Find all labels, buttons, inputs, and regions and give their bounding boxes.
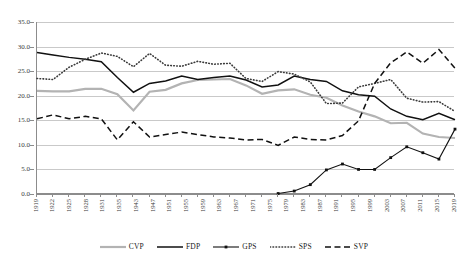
series-marker-gps <box>438 158 441 161</box>
x-tick-label: 1979 <box>283 199 290 212</box>
x-tick-mark <box>197 194 198 197</box>
x-tick-label: 1987 <box>317 199 324 212</box>
series-marker-gps <box>405 145 408 148</box>
y-tick-mark <box>30 96 34 97</box>
x-tick-label: 1922 <box>49 199 56 212</box>
x-tick-label: 1931 <box>99 199 106 212</box>
legend-item-fdp[interactable]: FDP <box>157 243 200 251</box>
legend-label: SVP <box>354 243 368 251</box>
x-tick-label: 1928 <box>83 199 90 212</box>
x-tick-mark <box>245 194 246 197</box>
series-marker-gps <box>373 168 376 171</box>
y-tick-mark <box>30 47 34 48</box>
x-tick-mark <box>132 194 133 197</box>
y-tick-label: 5.0 <box>21 166 30 173</box>
y-tick-mark <box>30 145 34 146</box>
series-marker-gps <box>309 183 312 186</box>
x-tick-label: 1925 <box>66 199 73 212</box>
x-tick-label: 2019 <box>451 199 458 212</box>
x-tick-label: 1971 <box>250 199 257 212</box>
x-axis: 1919192219251928193119351943194719511955… <box>36 194 454 234</box>
legend-label: GPS <box>242 243 256 251</box>
series-layer <box>37 22 455 194</box>
x-tick-label: 1999 <box>367 199 374 212</box>
y-tick-mark <box>30 71 34 72</box>
x-tick-mark <box>165 194 166 197</box>
y-tick-label: 0.0 <box>21 191 30 198</box>
x-tick-label: 2003 <box>384 199 391 212</box>
x-tick-mark <box>358 194 359 197</box>
y-axis: 0.05.010.015.020.025.030.035.0 <box>0 22 34 194</box>
x-tick-mark <box>261 194 262 197</box>
x-tick-label: 1955 <box>183 199 190 212</box>
x-tick-label: 1995 <box>350 199 357 212</box>
legend-label: SPS <box>299 243 312 251</box>
x-tick-label: 1983 <box>300 199 307 212</box>
x-tick-label: 1967 <box>233 199 240 212</box>
legend-swatch-gps-icon <box>213 243 239 251</box>
x-tick-label: 1935 <box>116 199 123 212</box>
y-tick-mark <box>30 169 34 170</box>
x-tick-label: 1975 <box>267 199 274 212</box>
x-tick-mark <box>374 194 375 197</box>
x-tick-mark <box>68 194 69 197</box>
legend-swatch-sps-icon <box>270 243 296 251</box>
series-marker-gps <box>357 168 360 171</box>
x-tick-label: 2007 <box>400 199 407 212</box>
legend-swatch-fdp-icon <box>157 243 183 251</box>
x-tick-label: 1963 <box>216 199 223 212</box>
series-marker-gps <box>421 151 424 154</box>
x-tick-label: 1951 <box>166 199 173 212</box>
chart-legend: CVPFDPGPSSPSSVP <box>0 243 468 251</box>
x-tick-mark <box>406 194 407 197</box>
x-tick-label: 1943 <box>133 199 140 212</box>
series-marker-gps <box>454 128 457 131</box>
x-tick-label: 1991 <box>333 199 340 212</box>
y-tick-mark <box>30 22 34 23</box>
x-tick-mark <box>36 194 37 197</box>
x-tick-mark <box>341 194 342 197</box>
legend-item-cvp[interactable]: CVP <box>100 243 144 251</box>
y-tick-label: 15.0 <box>18 117 30 124</box>
x-tick-label: 2011 <box>417 199 424 212</box>
y-tick-label: 35.0 <box>18 19 30 26</box>
y-tick-mark <box>30 120 34 121</box>
x-tick-mark <box>52 194 53 197</box>
x-tick-mark <box>454 194 455 197</box>
x-tick-label: 1947 <box>150 199 157 212</box>
series-marker-gps <box>389 156 392 159</box>
series-line-cvp <box>37 79 455 138</box>
y-tick-label: 25.0 <box>18 68 30 75</box>
x-tick-mark <box>84 194 85 197</box>
legend-label: FDP <box>186 243 200 251</box>
y-tick-label: 20.0 <box>18 92 30 99</box>
x-tick-mark <box>181 194 182 197</box>
x-tick-mark <box>277 194 278 197</box>
x-tick-mark <box>390 194 391 197</box>
plot-area <box>36 22 454 194</box>
y-tick-mark <box>30 194 34 195</box>
legend-swatch-svp-icon <box>325 243 351 251</box>
x-tick-mark <box>100 194 101 197</box>
x-tick-mark <box>422 194 423 197</box>
legend-label: CVP <box>129 243 144 251</box>
x-tick-label: 2015 <box>434 199 441 212</box>
series-marker-gps <box>325 169 328 172</box>
series-marker-gps <box>341 163 344 166</box>
x-tick-mark <box>149 194 150 197</box>
y-tick-label: 10.0 <box>18 141 30 148</box>
x-tick-mark <box>116 194 117 197</box>
x-tick-label: 1919 <box>33 199 40 212</box>
legend-swatch-cvp-icon <box>100 243 126 251</box>
x-tick-mark <box>293 194 294 197</box>
x-tick-mark <box>438 194 439 197</box>
x-tick-label: 1959 <box>200 199 207 212</box>
line-chart: 0.05.010.015.020.025.030.035.0 191919221… <box>0 0 468 273</box>
series-marker-gps <box>293 190 296 193</box>
y-tick-label: 30.0 <box>18 43 30 50</box>
legend-item-sps[interactable]: SPS <box>270 243 312 251</box>
x-tick-mark <box>325 194 326 197</box>
legend-item-svp[interactable]: SVP <box>325 243 368 251</box>
legend-item-gps[interactable]: GPS <box>213 243 256 251</box>
series-line-svp <box>37 50 455 146</box>
